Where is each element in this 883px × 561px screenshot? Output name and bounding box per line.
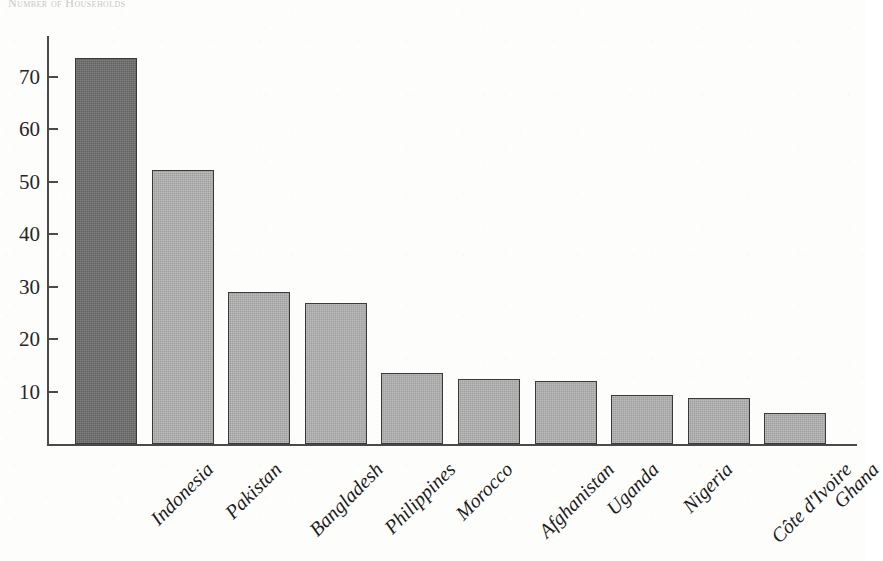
bar-ghana[interactable] — [764, 413, 826, 445]
bar-c-te-d-ivoire[interactable] — [688, 398, 750, 444]
bar-indonesia[interactable] — [75, 58, 137, 444]
bar-pakistan[interactable] — [152, 170, 214, 444]
bar-afghanistan[interactable] — [458, 379, 520, 444]
bar-philippines[interactable] — [305, 303, 367, 444]
bar-bangladesh[interactable] — [228, 292, 290, 444]
bar-morocco[interactable] — [381, 373, 443, 444]
bar-nigeria[interactable] — [611, 395, 673, 444]
bar-uganda[interactable] — [535, 381, 597, 444]
